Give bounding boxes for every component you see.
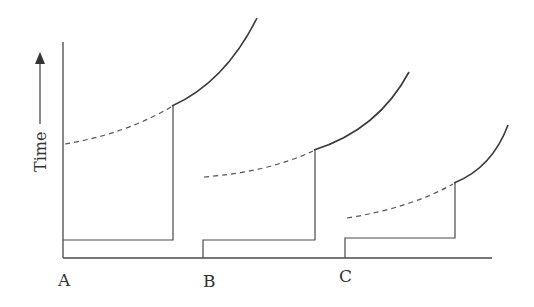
segment-c [345, 125, 508, 258]
arrow-up-icon [35, 52, 45, 64]
point-label-b: B [203, 271, 216, 291]
y-axis-label: Time [31, 132, 50, 172]
time-diagram: Time A B C [0, 0, 534, 307]
segment-a-dashed-curve [65, 107, 171, 144]
segment-b [203, 72, 409, 258]
segment-c-box [345, 183, 455, 258]
segment-a [63, 18, 257, 240]
segment-c-dashed-curve [347, 184, 453, 218]
y-axis-label-group: Time [31, 52, 50, 172]
segment-c-solid-curve [454, 125, 508, 183]
point-label-a: A [57, 270, 71, 290]
segment-b-dashed-curve [204, 151, 313, 177]
segment-a-box [63, 106, 173, 240]
segment-a-solid-curve [172, 18, 257, 106]
point-label-c: C [339, 266, 352, 286]
segment-b-solid-curve [314, 72, 409, 150]
segment-b-box [203, 150, 315, 258]
